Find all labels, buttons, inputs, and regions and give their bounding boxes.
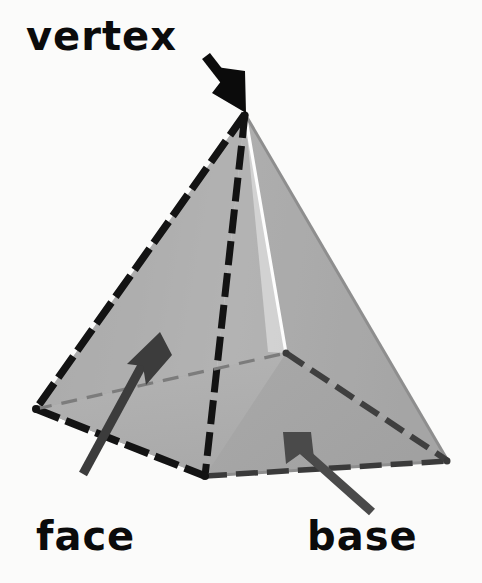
label-vertex: vertex (26, 16, 177, 56)
corner-apex (242, 112, 249, 119)
vertex-arrow (206, 56, 246, 113)
label-face: face (36, 516, 135, 556)
pyramid-figure (0, 0, 482, 583)
label-base: base (307, 516, 418, 556)
corner-base-right (444, 458, 451, 465)
pyramid-diagram-page: vertex face base (0, 0, 482, 583)
corner-base-left (32, 405, 40, 413)
corner-base-front (201, 472, 209, 480)
corner-base-back (283, 350, 290, 357)
